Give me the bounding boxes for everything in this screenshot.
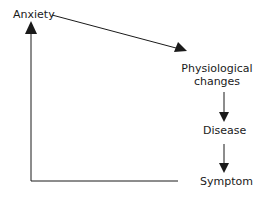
edge-disease-to-symptom [219, 144, 229, 173]
node-physiological-label-line1: Physiological [178, 62, 256, 75]
edge-symptom-to-anxiety [25, 21, 178, 181]
node-anxiety-label: Anxiety [13, 8, 55, 21]
arrowhead-icon [219, 163, 229, 173]
arrowhead-icon [219, 112, 229, 122]
node-symptom-label: Symptom [200, 175, 253, 188]
arrowhead-icon [25, 21, 37, 34]
arrowhead-icon [174, 42, 187, 52]
node-disease: Disease [203, 124, 246, 137]
node-disease-label: Disease [203, 124, 246, 137]
node-physiological-changes: Physiological changes [178, 62, 256, 88]
edge-anxiety-to-physiological [52, 15, 187, 52]
node-symptom: Symptom [200, 175, 253, 188]
node-anxiety: Anxiety [13, 8, 55, 21]
node-physiological-label-line2: changes [178, 75, 256, 88]
edge-physiological-to-disease [219, 92, 229, 122]
